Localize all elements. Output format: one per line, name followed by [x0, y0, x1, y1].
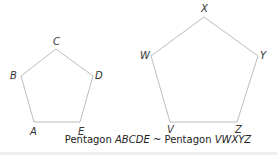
- caption-name-vwxyz: VWXYZ: [215, 134, 253, 145]
- pentagon-vwxyz: [151, 17, 258, 122]
- similarity-symbol: ~: [150, 134, 165, 145]
- vertex-label-w: W: [140, 50, 151, 61]
- bottom-divider: [0, 152, 277, 155]
- caption-name-abcde: ABCDE: [114, 134, 150, 145]
- pentagon-abcde: [21, 49, 93, 122]
- vertex-label-d: D: [95, 70, 103, 81]
- vertex-label-x: X: [200, 3, 209, 14]
- vertex-label-c: C: [53, 36, 60, 47]
- similar-pentagons-diagram: A B C D E V W X Y Z Pentagon ABCDE ~ Pen…: [0, 0, 277, 155]
- caption-prefix-2: Pentagon: [164, 134, 214, 145]
- caption: Pentagon ABCDE ~ Pentagon VWXYZ: [65, 134, 253, 145]
- vertex-label-y: Y: [260, 50, 267, 61]
- caption-prefix: Pentagon: [65, 134, 115, 145]
- vertex-label-a: A: [29, 126, 37, 137]
- vertex-label-b: B: [10, 70, 17, 81]
